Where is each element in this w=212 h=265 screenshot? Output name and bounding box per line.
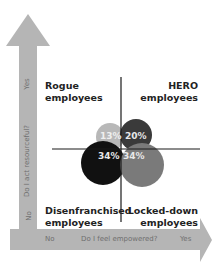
hero-percent: 20% — [125, 131, 147, 141]
hero-label-line2: employees — [140, 92, 198, 104]
y-axis-yes: Yes — [23, 78, 31, 89]
y-axis-question: Do I act resourceful? — [23, 125, 31, 197]
disenfranchised-circle — [81, 141, 125, 185]
rogue-percent: 13% — [100, 131, 122, 141]
locked-down-percent: 34% — [123, 151, 145, 161]
disenfranchised-percent: 34% — [98, 151, 120, 161]
locked-down-label-line1: Locked-down — [128, 205, 198, 217]
locked-down-label: Locked-down employees — [128, 205, 198, 229]
x-axis-question: Do I feel empowered? — [81, 235, 158, 243]
locked-down-circle — [120, 143, 164, 187]
x-axis-yes: Yes — [180, 235, 191, 243]
hero-label-line1: HERO — [140, 80, 198, 92]
disenfranchised-label: Disenfranchised employees — [45, 205, 132, 229]
x-axis-no: No — [45, 235, 55, 243]
disenfranchised-label-line1: Disenfranchised — [45, 205, 132, 217]
rogue-label-line1: Rogue — [45, 80, 103, 92]
rogue-label: Rogue employees — [45, 80, 103, 104]
hero-label: HERO employees — [140, 80, 198, 104]
locked-down-label-line2: employees — [128, 217, 198, 229]
y-axis-no: No — [25, 211, 33, 221]
disenfranchised-label-line2: employees — [45, 217, 132, 229]
rogue-label-line2: employees — [45, 92, 103, 104]
